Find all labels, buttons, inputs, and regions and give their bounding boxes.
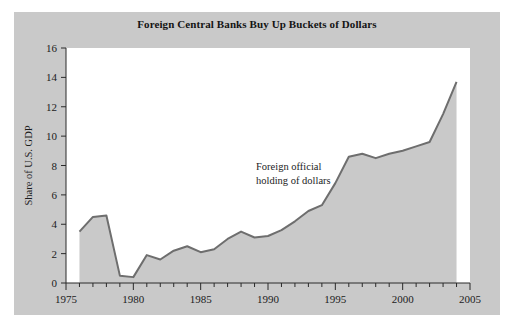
chart-panel: Foreign Central Banks Buy Up Buckets of … — [14, 12, 500, 315]
y-tick-label: 16 — [46, 42, 58, 54]
y-tick-label: 0 — [52, 277, 58, 289]
y-tick-label: 2 — [52, 248, 58, 260]
chart-plot: 0246810121416197519801985199019952000200… — [14, 12, 500, 315]
y-tick-label: 12 — [46, 101, 57, 113]
y-tick-label: 6 — [52, 189, 58, 201]
annotation-line-2: holding of dollars — [256, 175, 331, 186]
x-tick-label: 1995 — [324, 293, 347, 305]
x-tick-label: 2000 — [392, 293, 415, 305]
x-tick-label: 1990 — [257, 293, 280, 305]
annotation-line-1: Foreign official — [256, 161, 321, 172]
y-tick-label: 10 — [46, 130, 58, 142]
x-tick-label: 1980 — [122, 293, 145, 305]
x-tick-label: 1975 — [55, 293, 78, 305]
chart-screenshot: Foreign Central Banks Buy Up Buckets of … — [0, 0, 511, 327]
y-axis-title: Share of U.S. GDP — [23, 125, 34, 205]
y-tick-label: 8 — [52, 160, 58, 172]
x-tick-label: 2005 — [459, 293, 482, 305]
y-tick-label: 14 — [46, 71, 58, 83]
y-tick-label: 4 — [52, 218, 58, 230]
x-tick-label: 1985 — [190, 293, 213, 305]
